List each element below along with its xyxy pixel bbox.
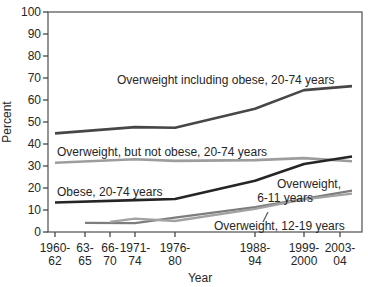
series-label: 6-11 years bbox=[257, 191, 313, 205]
x-tick-label-row1: 63- bbox=[76, 241, 93, 255]
series-label: Obese, 20-74 years bbox=[57, 185, 162, 199]
x-tick-label-row2: 74 bbox=[128, 254, 142, 268]
x-tick-label-row1: 1988- bbox=[240, 241, 271, 255]
plot-area: 01020304050607080901001960-6263-6566-701… bbox=[21, 5, 362, 268]
x-tick-label-row1: 1971- bbox=[120, 241, 151, 255]
series-label: Overweight, 12-19 years bbox=[214, 219, 345, 233]
x-tick-label-row1: 2003- bbox=[325, 241, 356, 255]
y-tick-label: 70 bbox=[28, 71, 42, 85]
x-tick-label-row2: 94 bbox=[248, 254, 262, 268]
x-axis-title: Year bbox=[188, 271, 212, 285]
x-tick-label-row2: 04 bbox=[333, 254, 347, 268]
y-tick-label: 10 bbox=[28, 203, 42, 217]
y-tick-label: 50 bbox=[28, 115, 42, 129]
chart-canvas: 01020304050607080901001960-6263-6566-701… bbox=[0, 0, 368, 287]
series-label: Overweight, but not obese, 20-74 years bbox=[57, 145, 267, 159]
x-tick-label-row1: 1999- bbox=[289, 241, 320, 255]
x-tick-label-row1: 66- bbox=[101, 241, 118, 255]
y-tick-label: 20 bbox=[28, 181, 42, 195]
y-tick-label: 100 bbox=[21, 5, 41, 19]
x-tick-label-row1: 1960- bbox=[40, 241, 71, 255]
x-tick-label-row2: 65 bbox=[78, 254, 92, 268]
x-tick-label-row1: 1976- bbox=[160, 241, 191, 255]
y-tick-label: 0 bbox=[34, 225, 41, 239]
series-label: Overweight, bbox=[277, 177, 341, 191]
y-tick-label: 60 bbox=[28, 93, 42, 107]
scanned-line-chart-figure: 01020304050607080901001960-6263-6566-701… bbox=[0, 0, 368, 287]
y-tick-label: 30 bbox=[28, 159, 42, 173]
y-tick-label: 90 bbox=[28, 27, 42, 41]
y-axis-title: Percent bbox=[0, 101, 14, 143]
x-tick-label-row2: 70 bbox=[103, 254, 117, 268]
series-label: Overweight including obese, 20-74 years bbox=[117, 73, 334, 87]
x-tick-label-row2: 62 bbox=[48, 254, 62, 268]
y-tick-label: 40 bbox=[28, 137, 42, 151]
x-tick-label-row2: 2000 bbox=[291, 254, 318, 268]
series-line-1 bbox=[55, 86, 352, 133]
x-tick-label-row2: 80 bbox=[168, 254, 182, 268]
y-tick-label: 80 bbox=[28, 49, 42, 63]
